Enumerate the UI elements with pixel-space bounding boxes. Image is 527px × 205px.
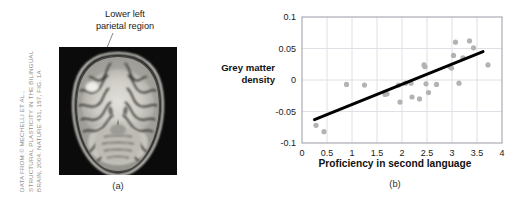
brain-scan-svg <box>59 47 177 175</box>
svg-text:1.5: 1.5 <box>371 148 384 158</box>
panel-b-caption: (b) <box>273 178 517 189</box>
svg-text:2.5: 2.5 <box>421 148 434 158</box>
svg-text:4: 4 <box>499 148 504 158</box>
data-credit-text: DATA FROM © MECHELLI ET AL., STRUCTURAL … <box>18 6 44 192</box>
chart-gridlines <box>302 17 502 143</box>
figure-container: DATA FROM © MECHELLI ET AL., STRUCTURAL … <box>0 0 527 205</box>
brain-scan-image <box>59 47 177 175</box>
svg-text:0.05: 0.05 <box>278 44 296 54</box>
svg-text:0: 0 <box>299 148 304 158</box>
svg-text:-0.1: -0.1 <box>280 138 296 148</box>
svg-text:0.5: 0.5 <box>321 148 334 158</box>
trendline <box>315 52 484 120</box>
highlight-parietal-region <box>86 82 99 92</box>
svg-text:1: 1 <box>349 148 354 158</box>
credit-line-3: BRAIN, 2004. NATURE 431, 157, FIG. 1A <box>35 6 44 192</box>
panel-b-scatter-chart: Grey matterdensity 0.10.050-0.05-0.1 00.… <box>263 0 527 205</box>
scatter-plot: 0.10.050-0.05-0.1 00.511.522.533.54 <box>263 0 527 160</box>
callout-label: Lower left parietal region <box>73 9 177 32</box>
svg-text:0: 0 <box>291 75 296 85</box>
panel-a-brain-scan: DATA FROM © MECHELLI ET AL., STRUCTURAL … <box>0 0 263 205</box>
svg-text:3: 3 <box>449 148 454 158</box>
panel-a-caption: (a) <box>59 180 177 191</box>
svg-text:0.1: 0.1 <box>283 12 296 22</box>
y-tick-labels: 0.10.050-0.05-0.1 <box>275 12 296 148</box>
credit-line-2: STRUCTURAL PLASTICITY IN THE BILINGUAL <box>27 6 36 192</box>
x-axis-title: Proficiency in second language <box>273 158 517 169</box>
svg-text:3.5: 3.5 <box>471 148 484 158</box>
svg-text:-0.05: -0.05 <box>275 107 296 117</box>
callout-label-line-1: Lower left <box>73 9 177 21</box>
svg-text:2: 2 <box>399 148 404 158</box>
callout-label-line-2: parietal region <box>73 21 177 33</box>
credit-line-1: DATA FROM © MECHELLI ET AL., <box>18 6 27 192</box>
x-tick-labels: 00.511.522.533.54 <box>299 148 504 158</box>
